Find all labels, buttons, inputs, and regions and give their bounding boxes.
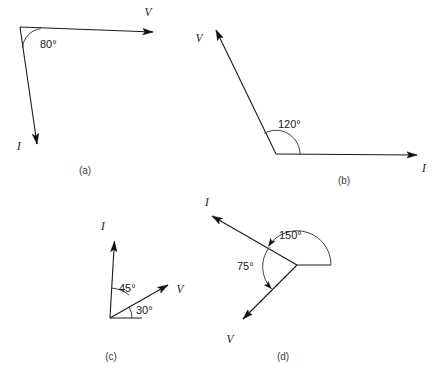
panel-d-angle-150-label: 150°	[279, 229, 302, 241]
panel-d: I V 150° 75° (d)	[204, 196, 331, 362]
panel-d-label-v: V	[226, 333, 235, 345]
panel-b: V I 120° (b)	[195, 30, 427, 186]
panel-a-vector-v-line	[20, 27, 153, 32]
panel-a-angle-label: 80°	[40, 38, 57, 50]
panel-d-caption: (d)	[277, 351, 289, 362]
panel-c-label-i: I	[100, 220, 106, 232]
panel-b-angle-label: 120°	[278, 118, 301, 130]
panel-b-label-v: V	[195, 32, 204, 44]
panel-c-angle-45-label: 45°	[119, 282, 136, 294]
panel-b-vector-i-line	[276, 154, 417, 155]
panel-c: I V 45° 30° (c)	[100, 220, 185, 362]
panel-c-caption: (c)	[105, 351, 117, 362]
panel-c-label-v: V	[176, 283, 185, 295]
panel-a-label-v: V	[144, 6, 153, 18]
panel-c-vector-i-line	[110, 242, 114, 319]
panel-b-caption: (b)	[338, 175, 350, 186]
panel-a: V I 80° (a)	[16, 6, 153, 176]
panel-b-label-i: I	[421, 162, 427, 174]
panel-d-vector-v-line	[243, 265, 297, 319]
panel-a-angle-arc	[23, 29, 41, 48]
panel-d-label-i: I	[204, 196, 210, 208]
panel-d-angle-75-label: 75°	[237, 260, 254, 272]
panel-c-angle-30-label: 30°	[136, 304, 153, 316]
panel-a-caption: (a)	[79, 165, 91, 176]
panel-c-angle-30-arc	[129, 307, 132, 318]
phasor-diagram-figure: V I 80° (a) V I 120° (b) I V 45° 30° (c)	[0, 0, 440, 389]
panel-b-vector-v-line	[216, 30, 276, 154]
panel-d-angle-75-arc	[263, 247, 272, 288]
figure-container: V I 80° (a) V I 120° (b) I V 45° 30° (c)	[0, 0, 440, 389]
panel-a-label-i: I	[16, 140, 22, 152]
